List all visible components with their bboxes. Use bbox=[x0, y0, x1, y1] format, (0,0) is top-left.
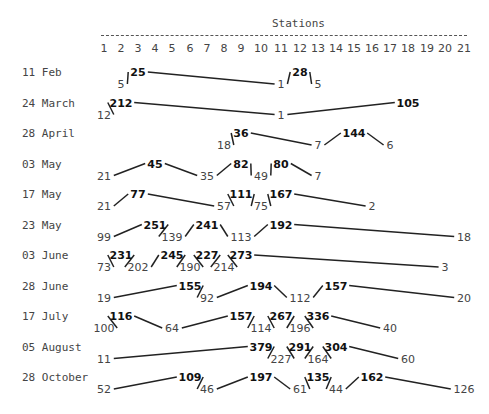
profile-segment bbox=[134, 316, 162, 328]
station-tick-label: 3 bbox=[135, 42, 142, 55]
station-tick-label: 7 bbox=[204, 42, 211, 55]
peak-value-label: 336 bbox=[307, 310, 330, 323]
date-row: 28 June191559219411215720 bbox=[22, 280, 471, 305]
date-row: 17 May217757111751672 bbox=[22, 188, 376, 213]
profile-segment bbox=[324, 133, 340, 145]
trough-value-label: 7 bbox=[315, 170, 322, 183]
profile-segment bbox=[182, 316, 228, 328]
station-tick-label: 19 bbox=[420, 42, 434, 55]
profile-segment bbox=[313, 286, 323, 298]
trough-value-label: 190 bbox=[180, 261, 201, 274]
peak-value-label: 111 bbox=[230, 188, 253, 201]
profile-segment bbox=[134, 103, 274, 115]
station-tick-label: 8 bbox=[221, 42, 228, 55]
station-tick-label: 9 bbox=[238, 42, 245, 55]
trough-value-label: 12 bbox=[97, 109, 111, 122]
station-tick-label: 15 bbox=[347, 42, 361, 55]
station-tick-label: 2 bbox=[118, 42, 125, 55]
trough-value-label: 11 bbox=[97, 353, 111, 366]
trough-value-label: 21 bbox=[97, 200, 111, 213]
date-row: 23 May9925113924111319218 bbox=[22, 219, 471, 244]
station-tick-label: 16 bbox=[365, 42, 379, 55]
peak-value-label: 77 bbox=[130, 188, 145, 201]
profile-segment bbox=[367, 133, 383, 145]
trough-value-label: 18 bbox=[457, 231, 471, 244]
trough-value-label: 60 bbox=[401, 353, 415, 366]
date-row: 24 March122121105 bbox=[22, 97, 419, 122]
date-row: 11 Feb5251285 bbox=[22, 66, 322, 91]
profile-segment bbox=[274, 286, 287, 298]
peak-value-label: 25 bbox=[130, 66, 145, 79]
profile-segment bbox=[114, 194, 128, 206]
row-date-label: 28 June bbox=[22, 280, 68, 293]
row-date-label: 24 March bbox=[22, 97, 75, 110]
profile-segment bbox=[148, 72, 275, 84]
date-row: 28 October52109461976113544162126 bbox=[22, 371, 475, 396]
trough-value-label: 19 bbox=[97, 292, 111, 305]
trough-value-label: 1 bbox=[278, 78, 285, 91]
station-tick-label: 4 bbox=[152, 42, 159, 55]
profile-segment bbox=[217, 377, 248, 389]
peak-value-label: 144 bbox=[343, 127, 366, 140]
profile-segment bbox=[251, 133, 312, 145]
station-tick-label: 10 bbox=[254, 42, 268, 55]
station-tick-label: 17 bbox=[383, 42, 397, 55]
peak-value-label: 167 bbox=[270, 188, 293, 201]
peak-value-label: 273 bbox=[230, 249, 253, 262]
trough-value-label: 35 bbox=[200, 170, 214, 183]
profile-segment bbox=[294, 225, 454, 237]
profile-segment bbox=[385, 377, 451, 389]
trough-value-label: 75 bbox=[254, 200, 268, 213]
profile-segment bbox=[287, 72, 290, 84]
row-date-label: 03 May bbox=[22, 158, 62, 171]
trough-value-label: 57 bbox=[217, 200, 231, 213]
peak-value-label: 36 bbox=[233, 127, 249, 140]
profile-segment bbox=[346, 377, 359, 389]
peak-value-label: 192 bbox=[270, 219, 293, 232]
row-date-label: 28 April bbox=[22, 127, 75, 140]
trough-value-label: 18 bbox=[217, 139, 231, 152]
trough-value-label: 44 bbox=[329, 383, 343, 396]
station-tick-label: 6 bbox=[187, 42, 194, 55]
trough-value-label: 73 bbox=[97, 261, 111, 274]
row-date-label: 03 June bbox=[22, 249, 68, 262]
row-date-label: 11 Feb bbox=[22, 66, 62, 79]
peak-value-label: 80 bbox=[273, 158, 289, 171]
profile-segment bbox=[114, 225, 142, 237]
trough-value-label: 64 bbox=[165, 322, 179, 335]
trough-value-label: 164 bbox=[308, 353, 329, 366]
peak-value-label: 379 bbox=[250, 341, 273, 354]
row-date-label: 28 October bbox=[22, 371, 89, 384]
peak-value-label: 135 bbox=[307, 371, 330, 384]
profile-segment bbox=[349, 347, 398, 359]
trough-value-label: 113 bbox=[231, 231, 252, 244]
profile-segment bbox=[294, 194, 365, 206]
trough-value-label: 2 bbox=[369, 200, 376, 213]
trough-value-label: 6 bbox=[387, 139, 394, 152]
profile-segment bbox=[185, 225, 194, 237]
trough-value-label: 49 bbox=[254, 170, 268, 183]
trough-value-label: 100 bbox=[94, 322, 115, 335]
trough-value-label: 3 bbox=[442, 261, 449, 274]
peak-value-label: 162 bbox=[361, 371, 384, 384]
peak-value-label: 194 bbox=[250, 280, 273, 293]
station-tick-label: 14 bbox=[329, 42, 343, 55]
profile-segment bbox=[217, 286, 248, 298]
peak-value-label: 45 bbox=[147, 158, 162, 171]
profile-segment bbox=[287, 103, 394, 115]
profile-segment bbox=[165, 164, 197, 176]
profile-segment bbox=[220, 225, 228, 237]
peak-value-label: 109 bbox=[179, 371, 202, 384]
trough-value-label: 114 bbox=[251, 322, 272, 335]
peak-value-label: 28 bbox=[292, 66, 307, 79]
profile-segment bbox=[349, 286, 454, 298]
peak-value-label: 105 bbox=[397, 97, 420, 110]
profile-segment bbox=[114, 164, 145, 176]
station-tick-label: 18 bbox=[401, 42, 415, 55]
row-date-label: 05 August bbox=[22, 341, 82, 354]
peak-value-label: 116 bbox=[110, 310, 133, 323]
peak-value-label: 241 bbox=[196, 219, 219, 232]
station-profile-chart: 12345678910111213141516171819202111 Feb5… bbox=[0, 0, 489, 414]
trough-value-label: 139 bbox=[162, 231, 183, 244]
trough-value-label: 5 bbox=[118, 78, 125, 91]
